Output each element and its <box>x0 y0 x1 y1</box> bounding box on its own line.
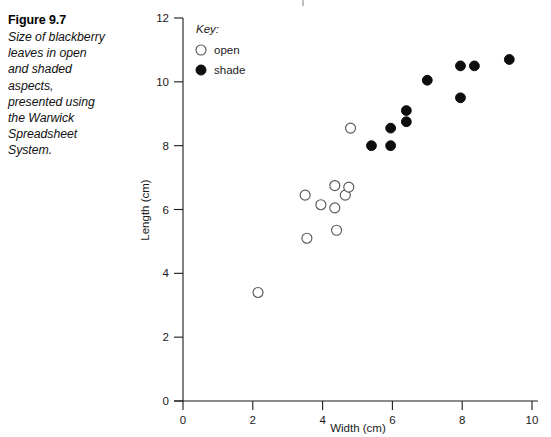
scatter-plot: 024681012 0246810 Length (cm) Width (cm)… <box>0 0 551 437</box>
y-tick-label: 4 <box>163 267 170 279</box>
data-point-open <box>330 181 340 191</box>
series-shade-points <box>367 55 515 151</box>
data-point-open <box>330 203 340 213</box>
legend-marker-open <box>196 45 206 55</box>
y-tick-label: 12 <box>156 12 169 24</box>
figure-root: Figure 9.7 Size of blackberry leaves in … <box>0 0 551 437</box>
x-tick-label: 4 <box>319 414 326 426</box>
data-point-shade <box>504 55 514 65</box>
legend-label-shade: shade <box>214 64 245 76</box>
data-point-open <box>332 225 342 235</box>
data-point-shade <box>367 141 377 151</box>
data-point-shade <box>470 61 480 71</box>
data-point-shade <box>386 123 396 133</box>
data-point-shade <box>456 93 466 103</box>
data-point-shade <box>456 61 466 71</box>
legend-title: Key: <box>196 23 219 35</box>
data-point-open <box>300 190 310 200</box>
y-tick-label: 0 <box>163 395 169 407</box>
data-point-open <box>316 200 326 210</box>
y-tick-label: 2 <box>163 331 169 343</box>
y-tick-label: 10 <box>156 76 169 88</box>
x-tick-label: 8 <box>459 414 465 426</box>
data-point-open <box>344 182 354 192</box>
data-point-shade <box>422 75 432 85</box>
data-point-shade <box>401 117 411 127</box>
x-tick-label: 10 <box>526 414 539 426</box>
legend-label-open: open <box>214 44 240 56</box>
legend-marker-shade <box>196 65 206 75</box>
x-tick-label: 0 <box>180 414 186 426</box>
data-point-open <box>346 123 356 133</box>
x-tick-label: 6 <box>389 414 395 426</box>
x-tick-label: 2 <box>250 414 256 426</box>
y-axis-title: Length (cm) <box>139 179 151 241</box>
x-axis-title: Width (cm) <box>330 422 386 434</box>
data-point-open <box>253 287 263 297</box>
legend: Key: open shade <box>196 23 245 76</box>
data-point-open <box>302 233 312 243</box>
y-axis-ticks: 024681012 <box>156 12 183 407</box>
data-point-shade <box>386 141 396 151</box>
data-point-shade <box>401 106 411 116</box>
y-tick-label: 6 <box>163 204 169 216</box>
y-tick-label: 8 <box>163 140 169 152</box>
series-open-points <box>253 123 355 297</box>
plot-canvas: 024681012 0246810 Length (cm) Width (cm)… <box>0 0 551 437</box>
